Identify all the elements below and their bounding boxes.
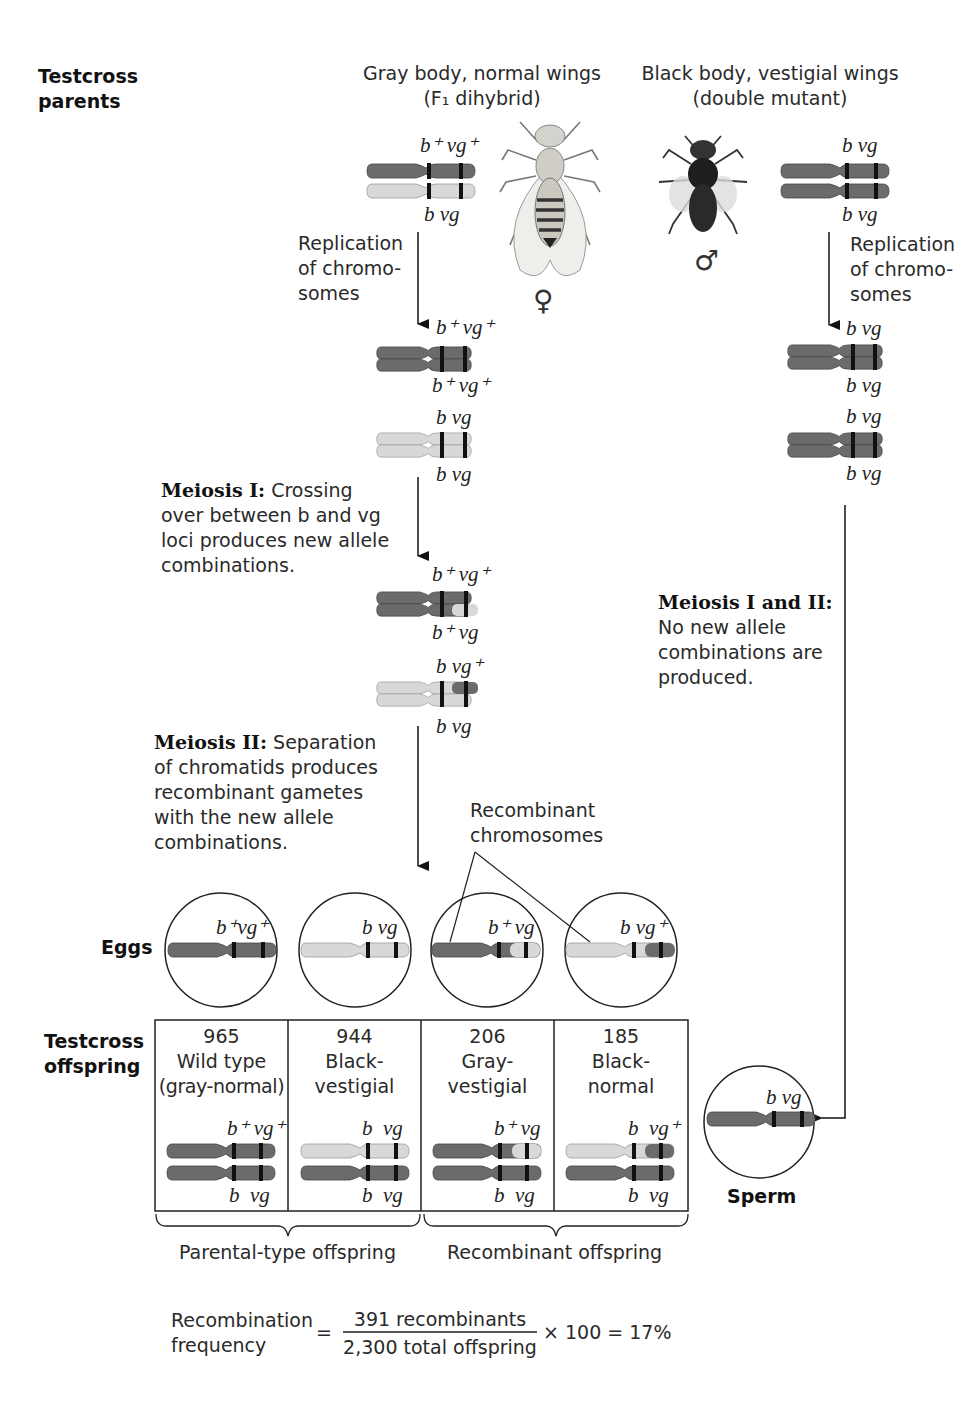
- female-parent-title: Gray body, normal wings (F₁ dihybrid): [352, 61, 612, 111]
- offspring-count: 206: [421, 1024, 554, 1049]
- egg-chromosomes: [168, 942, 675, 958]
- replicated-alleles: b vg: [846, 317, 882, 339]
- crossover-alleles: b⁺ vg⁺: [432, 563, 490, 585]
- meiosis1-description: Meiosis I: Crossing over between b and v…: [161, 478, 389, 578]
- sperm-label: Sperm: [727, 1184, 796, 1209]
- male-parent-chromosomes: [781, 163, 889, 199]
- eggs-label: Eggs: [101, 935, 153, 960]
- egg-alleles: b vg: [362, 916, 398, 938]
- replicated-alleles: b⁺ vg⁺: [436, 316, 494, 338]
- meiosis-male-description: Meiosis I and II: No new allele combinat…: [658, 590, 833, 690]
- crossover-alleles: b⁺ vg: [432, 621, 479, 643]
- offspring-alleles-bottom: b vg: [229, 1184, 270, 1206]
- formula-equals: =: [316, 1320, 332, 1345]
- crossover-alleles: b vg⁺: [436, 655, 483, 677]
- formula-result: × 100 = 17%: [543, 1320, 671, 1345]
- sperm-chromosome: [707, 1111, 815, 1127]
- formula-lhs: Recombination frequency: [171, 1308, 313, 1358]
- testcross-offspring-label: Testcross offspring: [44, 1029, 144, 1079]
- formula-denominator: 2,300 total offspring: [340, 1335, 540, 1360]
- offspring-alleles-top: b⁺ vg: [494, 1117, 541, 1139]
- offspring-cell: 185 Black- normal: [554, 1020, 688, 1210]
- female-replicated-chromosomes: [377, 346, 472, 458]
- recombinant-chromosomes-label: Recombinant chromosomes: [470, 798, 603, 848]
- replicated-alleles: b vg: [436, 463, 472, 485]
- offspring-cell: 206 Gray- vestigial: [421, 1020, 554, 1210]
- offspring-alleles-bottom: b vg: [628, 1184, 669, 1206]
- female-parent-chromosomes: [367, 163, 475, 199]
- male-symbol-icon: ♂: [694, 244, 719, 277]
- egg-alleles: b⁺vg⁺: [216, 916, 268, 938]
- crossover-chromosomes: [377, 591, 478, 707]
- offspring-alleles-top: b vg: [362, 1117, 403, 1139]
- offspring-alleles-top: b⁺ vg⁺: [227, 1117, 285, 1139]
- parental-offspring-label: Parental-type offspring: [179, 1240, 396, 1265]
- male-fly-icon: [659, 136, 747, 234]
- formula-numerator: 391 recombinants: [340, 1307, 540, 1332]
- male-parent-title: Black body, vestigial wings (double muta…: [640, 61, 900, 111]
- offspring-cell: 944 Black- vestigial: [288, 1020, 421, 1210]
- male-replicated-chromosomes: [788, 344, 883, 458]
- parental-brace: [156, 1214, 420, 1236]
- crossover-alleles: b vg: [436, 715, 472, 737]
- male-alleles-top: b vg: [842, 134, 878, 156]
- recombinant-offspring-label: Recombinant offspring: [447, 1240, 662, 1265]
- offspring-alleles-bottom: b vg: [494, 1184, 535, 1206]
- replicated-alleles: b vg: [846, 405, 882, 427]
- offspring-cell: 965 Wild type (gray-normal): [155, 1020, 288, 1210]
- female-fly-icon: [500, 122, 600, 276]
- meiosis2-description: Meiosis II: Separation of chromatids pro…: [154, 730, 378, 855]
- female-alleles-bottom: b vg: [424, 203, 460, 225]
- offspring-count: 965: [155, 1024, 288, 1049]
- offspring-count: 185: [554, 1024, 688, 1049]
- replicated-alleles: b vg: [846, 462, 882, 484]
- egg-alleles: b vg⁺: [620, 916, 667, 938]
- female-symbol-icon: ♀: [533, 284, 554, 317]
- recombinant-pointer-1: [450, 852, 475, 942]
- offspring-alleles-top: b vg⁺: [628, 1117, 680, 1139]
- female-alleles-top: b⁺ vg⁺: [420, 134, 478, 156]
- testcross-parents-label: Testcross parents: [38, 64, 138, 114]
- replicated-alleles: b vg: [846, 374, 882, 396]
- offspring-count: 944: [288, 1024, 421, 1049]
- replication-label-left: Replication of chromo- somes: [298, 231, 403, 306]
- sperm-alleles: b vg: [766, 1086, 802, 1108]
- egg-alleles: b⁺ vg: [488, 916, 535, 938]
- replicated-alleles: b⁺ vg⁺: [432, 374, 490, 396]
- offspring-alleles-bottom: b vg: [362, 1184, 403, 1206]
- male-alleles-bottom: b vg: [842, 203, 878, 225]
- replicated-alleles: b vg: [436, 406, 472, 428]
- replication-label-right: Replication of chromo- somes: [850, 232, 955, 307]
- recombinant-brace: [424, 1214, 688, 1236]
